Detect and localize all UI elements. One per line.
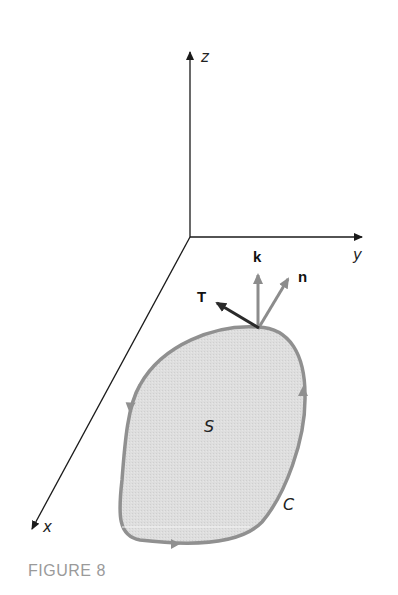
z-axis-label: z [200, 48, 210, 66]
n-vector [258, 279, 288, 329]
x-axis-label: x [42, 518, 52, 536]
surface-label: S [204, 417, 214, 436]
n-vector-label: n [298, 268, 307, 285]
stokes-theorem-diagram: z y x S C k n T [0, 0, 398, 595]
surface-region: S C [120, 327, 308, 549]
t-vector-label: T [197, 288, 206, 305]
y-axis-label: y [352, 246, 363, 264]
t-vector [217, 303, 259, 328]
curve-label: C [283, 495, 295, 514]
k-vector-label: k [253, 248, 262, 265]
figure-caption: FIGURE 8 [28, 562, 106, 580]
vectors: k n T [197, 248, 307, 329]
